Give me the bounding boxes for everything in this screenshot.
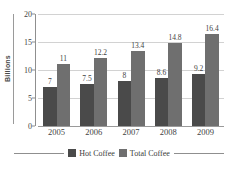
legend-item-total-coffee[interactable]: Total Coffee — [119, 149, 170, 158]
y-tick-label: 20 — [24, 10, 32, 19]
bar-total-coffee-2007[interactable] — [131, 51, 145, 126]
bar-hot-coffee-2006[interactable] — [80, 84, 94, 126]
bar-value-label: 11 — [60, 54, 67, 63]
bar-total-coffee-2009[interactable] — [205, 34, 219, 126]
bar-value-label: 7 — [48, 77, 52, 86]
bar-value-label: 8.6 — [157, 68, 166, 77]
bar-value-label: 16.4 — [206, 24, 219, 33]
chart-legend: Hot Coffee Total Coffee — [14, 146, 224, 160]
legend-swatch-icon-total-coffee — [119, 149, 127, 157]
bar-group: 7.512.2 — [80, 14, 107, 126]
bar-group: 813.4 — [118, 14, 145, 126]
y-axis-line — [35, 14, 36, 126]
y-axis-label: Billions — [4, 55, 11, 82]
bar-group: 9.216.4 — [192, 14, 219, 126]
bar-value-label: 9.2 — [194, 64, 203, 73]
bar-hot-coffee-2008[interactable] — [155, 78, 169, 126]
bar-value-label: 14.8 — [168, 33, 181, 42]
bar-series-container: 7117.512.2813.48.614.89.216.4 — [38, 14, 224, 126]
y-tick-label: 10 — [24, 66, 32, 75]
plot-area: 7117.512.2813.48.614.89.216.4 — [38, 14, 224, 126]
bar-hot-coffee-2009[interactable] — [192, 74, 206, 126]
x-axis-labels: 20052006200720082009 — [38, 127, 224, 141]
y-axis-label-container: Billions — [0, 0, 14, 136]
y-tick-label: 15 — [24, 38, 32, 47]
x-tick-label-2009: 2009 — [197, 127, 214, 137]
bar-group: 8.614.8 — [155, 14, 182, 126]
x-tick-label-2007: 2007 — [123, 127, 140, 137]
bar-total-coffee-2006[interactable] — [94, 58, 108, 126]
y-axis-ticks: 05101520 — [14, 0, 35, 136]
legend-label-total-coffee: Total Coffee — [130, 149, 170, 158]
bar-hot-coffee-2007[interactable] — [118, 81, 132, 126]
bar-chart: Billions 05101520 7117.512.2813.48.614.8… — [0, 0, 233, 172]
legend-label-hot-coffee: Hot Coffee — [79, 149, 115, 158]
legend-swatch-icon-hot-coffee — [68, 149, 76, 157]
legend-rule-right — [174, 153, 224, 154]
bar-value-label: 12.2 — [94, 48, 107, 57]
x-tick-label-2006: 2006 — [85, 127, 102, 137]
bar-hot-coffee-2005[interactable] — [43, 87, 57, 126]
x-tick-label-2008: 2008 — [160, 127, 177, 137]
bar-total-coffee-2008[interactable] — [168, 43, 182, 126]
legend-rule-left — [14, 153, 64, 154]
x-tick-label-2005: 2005 — [48, 127, 65, 137]
bar-value-label: 7.5 — [82, 74, 91, 83]
bar-value-label: 8 — [122, 71, 126, 80]
bar-group: 711 — [43, 14, 70, 126]
bar-value-label: 13.4 — [131, 41, 144, 50]
legend-item-hot-coffee[interactable]: Hot Coffee — [68, 149, 115, 158]
bar-total-coffee-2005[interactable] — [57, 64, 71, 126]
